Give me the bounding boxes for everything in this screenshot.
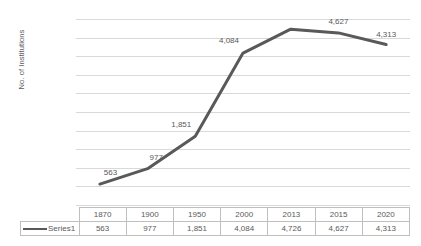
legend-header-blank [21,208,80,222]
table-value-cell: 4,084 [221,222,268,236]
table-value-cell: 1,851 [173,222,220,236]
table-header-cell: 2000 [221,208,268,222]
data-label-1870: 563 [104,169,117,177]
table-value-cell: 4,726 [268,222,315,236]
y-axis-title: No. of Institutions [17,0,26,120]
data-label-2020: 4,313 [366,31,406,39]
gridline [76,205,410,206]
data-label-1950: 1,851 [76,121,191,129]
series-line-series1 [76,19,410,205]
legend-label: Series1 [48,225,75,233]
table-header-cell: 1870 [79,208,126,222]
table-header-cell: 2013 [268,208,315,222]
table-value-cell: 563 [79,222,126,236]
line-chart: No. of Institutions 5,0004,5004,0003,500… [0,0,421,246]
legend-series1: Series1 [21,222,80,236]
table-header-cell: 1900 [126,208,173,222]
table-row-series1: Series1 5639771,8514,0844,7264,6274,313 [21,222,410,236]
table-header-cell: 2015 [315,208,362,222]
table-row-header: 1870190019502000201320152020 [21,208,410,222]
table-header-cell: 1950 [173,208,220,222]
data-label-1900: 977 [150,154,163,162]
table-value-cell: 4,627 [315,222,362,236]
line-marker-icon [23,228,47,230]
table-value-cell: 977 [126,222,173,236]
data-table: 1870190019502000201320152020 Series1 563… [20,207,410,236]
table-header-cell: 2020 [362,208,409,222]
data-label-2015: 4,627 [318,18,358,26]
table-value-cell: 4,313 [362,222,409,236]
plot-area: 5,0004,5004,0003,5003,0002,5002,0001,500… [76,19,410,205]
data-label-2000: 4,084 [76,37,239,45]
